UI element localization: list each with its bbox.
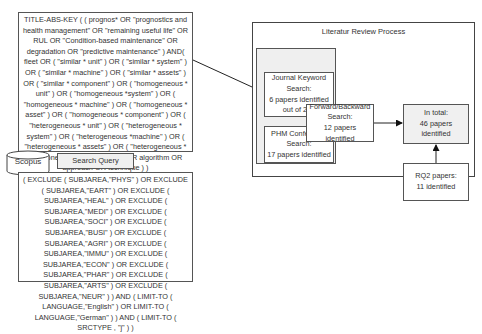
exclusion-filter-text: ( EXCLUDE ( SUBJAREA,"PHYS" ) OR EXCLUDE…: [23, 175, 188, 332]
search-query-box: TITLE-ABS-KEY ( ( prognos* OR "prognosti…: [18, 12, 193, 152]
node-text: Journal Keyword: [267, 73, 331, 84]
node-text: RQ2 papers:: [406, 171, 466, 182]
node-count: 46 papers identified: [406, 119, 466, 140]
scopus-label: Scopus: [6, 157, 50, 166]
node-count: 11 identified: [406, 182, 466, 193]
node-text: Forward/Backward: [309, 102, 371, 113]
total-papers-node: In total: 46 papers identified: [403, 104, 469, 144]
search-query-text: TITLE-ABS-KEY ( ( prognos* OR "prognosti…: [23, 15, 188, 172]
node-text: Search:: [267, 84, 331, 95]
node-text: In total:: [406, 108, 466, 119]
rq2-papers-node: RQ2 papers: 11 identified: [403, 163, 469, 201]
forward-backward-search-node: Forward/Backward Search: 12 papers ident…: [306, 104, 374, 142]
node-count: 17 papers identified: [267, 150, 331, 161]
node-text: Search:: [309, 112, 371, 123]
exclusion-filter-box: ( EXCLUDE ( SUBJAREA,"PHYS" ) OR EXCLUDE…: [18, 172, 193, 282]
process-title: Literatur Review Process: [253, 27, 474, 38]
node-count: 12 papers identified: [309, 123, 371, 144]
search-query-label: Search Query: [57, 153, 134, 169]
